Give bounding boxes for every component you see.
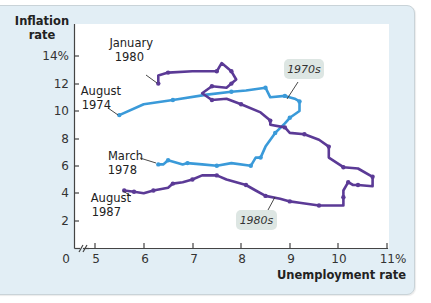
x-tick-9: 9 bbox=[287, 252, 295, 266]
x-tick-10: 10 bbox=[331, 252, 346, 266]
x-axis-title: Unemployment rate bbox=[277, 268, 406, 282]
data-point bbox=[346, 180, 350, 184]
series-layer bbox=[117, 63, 375, 208]
data-point bbox=[229, 81, 233, 85]
data-point bbox=[288, 199, 292, 203]
data-point bbox=[341, 195, 345, 199]
x-tick-0: 0 bbox=[62, 252, 70, 266]
annotation-aug1987-line2: 1987 bbox=[92, 205, 121, 219]
data-point bbox=[215, 164, 219, 168]
annotation-jan1980-line2: 1980 bbox=[115, 50, 144, 64]
data-point bbox=[283, 94, 287, 98]
data-point bbox=[166, 70, 170, 74]
y-tick-labels: 14% 12 10 8 6 4 2 bbox=[42, 49, 69, 228]
bubble-1970s: 1970s bbox=[284, 59, 324, 79]
leader-1970s bbox=[287, 82, 298, 99]
annotation-jan1980-line1: January bbox=[108, 36, 153, 50]
svg-text:1970s: 1970s bbox=[287, 63, 321, 76]
point-annotations: January 1980 August 1974 March 1978 Augu… bbox=[81, 36, 153, 219]
y-tick-6: 6 bbox=[61, 159, 69, 173]
x-tick-5: 5 bbox=[92, 252, 100, 266]
x-tick-6: 6 bbox=[141, 252, 149, 266]
data-point bbox=[132, 190, 136, 194]
data-point bbox=[166, 158, 170, 162]
x-tick-11: 11% bbox=[380, 252, 407, 266]
y-tick-14: 14% bbox=[42, 49, 69, 63]
bubble-1980s: 1980s bbox=[236, 210, 277, 230]
data-point bbox=[215, 173, 219, 177]
data-point bbox=[239, 102, 243, 106]
data-point bbox=[341, 165, 345, 169]
annotation-aug1974-line2: 1974 bbox=[82, 98, 111, 112]
x-tick-labels: 0 5 6 7 8 9 10 11% bbox=[62, 252, 406, 266]
y-tick-8: 8 bbox=[61, 132, 69, 146]
data-point bbox=[258, 155, 262, 159]
annotation-mar1978-line1: March bbox=[108, 149, 143, 163]
data-point bbox=[268, 118, 272, 122]
data-point bbox=[185, 161, 189, 165]
data-point bbox=[283, 125, 287, 129]
data-point bbox=[229, 90, 233, 94]
y-tick-12: 12 bbox=[54, 77, 69, 91]
data-point bbox=[327, 144, 331, 148]
annotation-mar1978-line2: 1978 bbox=[108, 163, 137, 177]
annotation-aug1987-line1: August bbox=[91, 191, 132, 205]
data-point bbox=[171, 98, 175, 102]
x-tick-7: 7 bbox=[190, 252, 198, 266]
data-point bbox=[156, 162, 160, 166]
data-point bbox=[244, 183, 248, 187]
y-tick-4: 4 bbox=[61, 186, 69, 200]
phillips-curve-chart: 14% 12 10 8 6 4 2 0 5 6 7 8 9 10 11% Inf… bbox=[0, 0, 431, 303]
data-point bbox=[263, 86, 267, 90]
data-point bbox=[156, 81, 160, 85]
y-tick-2: 2 bbox=[61, 214, 69, 228]
x-tick-8: 8 bbox=[238, 252, 246, 266]
data-point bbox=[151, 188, 155, 192]
data-point bbox=[229, 69, 233, 73]
data-point bbox=[356, 183, 360, 187]
y-axis-title-line2: rate bbox=[29, 28, 56, 42]
data-point bbox=[317, 203, 321, 207]
data-point bbox=[190, 177, 194, 181]
annotation-aug1974-line1: August bbox=[81, 84, 122, 98]
data-point bbox=[215, 69, 219, 73]
y-tick-10: 10 bbox=[54, 104, 69, 118]
data-point bbox=[273, 131, 277, 135]
data-point bbox=[249, 164, 253, 168]
data-point bbox=[302, 132, 306, 136]
data-point bbox=[210, 84, 214, 88]
y-axis-title-line1: Inflation bbox=[15, 14, 69, 28]
svg-text:1980s: 1980s bbox=[240, 214, 274, 227]
leader-1980s bbox=[268, 197, 275, 210]
data-point bbox=[297, 99, 301, 103]
data-point bbox=[263, 194, 267, 198]
series-1980s-line bbox=[124, 63, 372, 205]
data-point bbox=[210, 98, 214, 102]
data-point bbox=[288, 116, 292, 120]
data-point bbox=[370, 175, 374, 179]
data-point bbox=[171, 181, 175, 185]
